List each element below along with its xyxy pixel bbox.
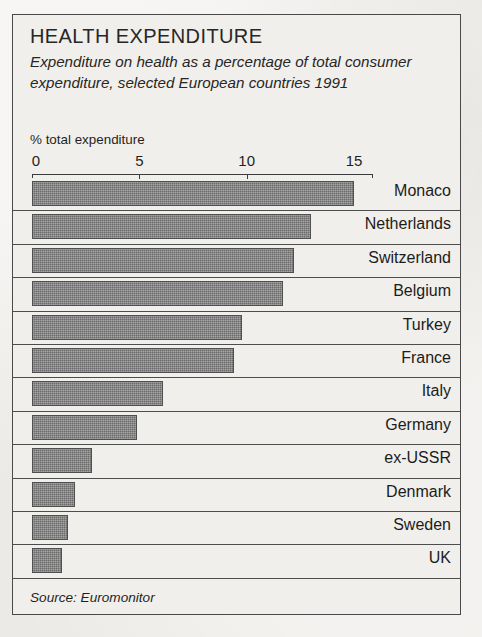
- page-title: Health Expenditure: [30, 25, 262, 48]
- bar-uk: [32, 548, 62, 573]
- x-axis-tick-labels: 051015: [13, 152, 460, 170]
- x-axis-caption: % total expenditure: [30, 132, 145, 147]
- category-label: Turkey: [403, 316, 451, 334]
- category-label: Switzerland: [368, 249, 451, 267]
- category-label: UK: [429, 549, 451, 567]
- category-label: France: [401, 349, 451, 367]
- chart-row: Switzerland: [13, 245, 460, 278]
- category-label: Italy: [422, 382, 451, 400]
- category-label: Germany: [385, 416, 451, 434]
- bar-ex-ussr: [32, 448, 92, 473]
- x-tick-mark-10: [247, 174, 248, 179]
- chart-subtitle: Expenditure on health as a percentage of…: [30, 52, 442, 93]
- category-label: Belgium: [393, 282, 451, 300]
- bar-germany: [32, 415, 137, 440]
- bar-monaco: [32, 181, 354, 206]
- chart-row: Netherlands: [13, 211, 460, 244]
- category-label: Sweden: [393, 516, 451, 534]
- x-tick-label-15: 15: [346, 152, 363, 169]
- scanned-page: Health Expenditure Expenditure on health…: [0, 0, 482, 637]
- bar-netherlands: [32, 214, 311, 239]
- bar-switzerland: [32, 248, 294, 273]
- bar-sweden: [32, 515, 68, 540]
- chart-row: Monaco: [13, 178, 460, 211]
- x-tick-mark-5: [139, 174, 140, 179]
- chart-row: Denmark: [13, 479, 460, 512]
- x-tick-label-0: 0: [32, 152, 40, 169]
- bar-turkey: [32, 315, 242, 340]
- x-tick-label-10: 10: [238, 152, 255, 169]
- category-label: ex-USSR: [384, 449, 451, 467]
- category-label: Denmark: [386, 483, 451, 501]
- chart-row: ex-USSR: [13, 445, 460, 478]
- chart-row: Germany: [13, 412, 460, 445]
- category-label: Monaco: [394, 182, 451, 200]
- chart-row: France: [13, 345, 460, 378]
- chart-row: Sweden: [13, 512, 460, 545]
- chart-row: Turkey: [13, 312, 460, 345]
- source-note: Source: Euromonitor: [30, 590, 155, 605]
- chart-row: Italy: [13, 378, 460, 411]
- bar-belgium: [32, 281, 283, 306]
- bar-denmark: [32, 482, 75, 507]
- category-label: Netherlands: [365, 215, 451, 233]
- x-tick-label-5: 5: [135, 152, 143, 169]
- bar-italy: [32, 381, 163, 406]
- bar-france: [32, 348, 234, 373]
- bars-plot-area: MonacoNetherlandsSwitzerlandBelgiumTurke…: [13, 178, 460, 579]
- chart-card: Health Expenditure Expenditure on health…: [12, 14, 461, 615]
- chart-row: Belgium: [13, 278, 460, 311]
- chart-row: UK: [13, 545, 460, 578]
